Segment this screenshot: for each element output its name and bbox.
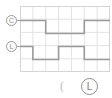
chart-background xyxy=(20,6,110,72)
timing-diagram-screenshot: C L xyxy=(0,0,112,98)
timing-chart-svg xyxy=(20,6,110,72)
signal-label-b: L xyxy=(6,41,17,52)
circled-letter-badge: L xyxy=(81,78,98,95)
open-paren-mark: ( xyxy=(60,79,64,93)
footnote-row: ( L xyxy=(55,77,110,97)
timing-chart xyxy=(20,6,110,72)
signal-label-a: C xyxy=(6,15,17,26)
